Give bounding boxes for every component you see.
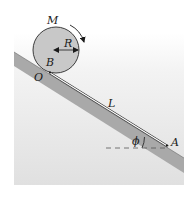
incline-disk-diagram: M R B O L ϕ A [0, 0, 194, 197]
label-contact-point: B [45, 56, 54, 69]
label-angle: ϕ [132, 135, 140, 148]
point-b-marker [49, 71, 51, 73]
label-origin: O [34, 71, 43, 84]
label-length: L [107, 97, 115, 110]
label-mass: M [46, 14, 59, 27]
label-end-point: A [170, 136, 179, 149]
label-radius: R [63, 37, 72, 50]
point-a-marker [166, 144, 168, 146]
